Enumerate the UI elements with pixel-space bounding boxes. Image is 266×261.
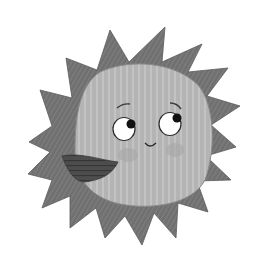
right-eye	[159, 113, 182, 136]
sun-svg	[0, 0, 266, 261]
sun-illustration	[0, 0, 266, 261]
left-eye	[113, 118, 136, 141]
right-cheek	[166, 143, 184, 157]
sun-face	[75, 64, 212, 206]
left-cheek	[118, 148, 138, 162]
left-pupil	[127, 120, 136, 129]
right-pupil	[173, 114, 182, 123]
